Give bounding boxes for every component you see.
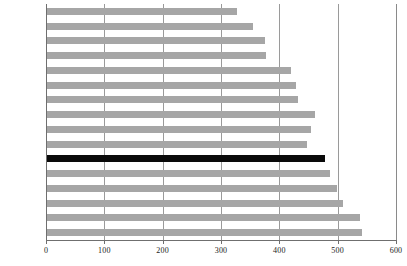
x-tick-100 (104, 240, 105, 244)
x-tick-label-400: 400 (273, 246, 286, 255)
x-tick-300 (221, 240, 222, 244)
bar-chart: 0100200300400500600 希腊丹麦爱尔兰荷兰葡萄牙芬兰英国西班牙瑞… (0, 0, 407, 266)
x-tick-label-500: 500 (331, 246, 344, 255)
category-axis-labels: 希腊丹麦爱尔兰荷兰葡萄牙芬兰英国西班牙瑞典比利时美国法国奥地利瑞士德国意大利 (0, 4, 407, 240)
x-tick-500 (338, 240, 339, 244)
x-tick-label-200: 200 (156, 246, 169, 255)
x-tick-label-300: 300 (215, 246, 228, 255)
x-tick-0 (46, 240, 47, 244)
x-tick-600 (396, 240, 397, 244)
x-tick-400 (279, 240, 280, 244)
x-tick-label-600: 600 (390, 246, 403, 255)
x-tick-label-0: 0 (44, 246, 48, 255)
x-tick-200 (163, 240, 164, 244)
x-tick-label-100: 100 (98, 246, 111, 255)
